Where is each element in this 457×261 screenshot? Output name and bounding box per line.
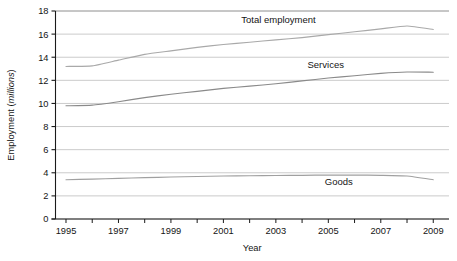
series-label-total-employment: Total employment	[241, 14, 316, 25]
x-axis-tick-labels-group: 19951997199920012003200520072009	[56, 226, 444, 236]
y-tick-label-14: 14	[38, 53, 48, 63]
x-axis-title: Year	[243, 243, 262, 253]
y-tick-label-6: 6	[43, 145, 48, 155]
series-line-total-employment	[66, 26, 433, 66]
series-line-goods	[66, 175, 433, 180]
series-label-goods: Goods	[325, 176, 353, 187]
y-tick-label-18: 18	[38, 6, 48, 16]
x-tick-label-2001: 2001	[213, 226, 234, 236]
employment-line-chart: 024681012141618 199519971999200120032005…	[0, 0, 457, 261]
y-tick-label-2: 2	[43, 191, 48, 201]
y-tick-label-10: 10	[38, 99, 48, 109]
series-line-services	[66, 72, 433, 106]
y-tick-label-16: 16	[38, 30, 48, 40]
y-axis-title: Employment (millions)	[6, 69, 16, 160]
x-tick-label-1995: 1995	[56, 226, 77, 236]
x-tick-label-2003: 2003	[266, 226, 287, 236]
series-lines-group	[66, 26, 433, 180]
y-tick-label-0: 0	[43, 214, 48, 224]
y-axis-tick-labels-group: 024681012141618	[38, 6, 48, 224]
x-tick-label-2005: 2005	[318, 226, 339, 236]
series-label-services: Services	[307, 59, 344, 70]
y-axis-title-close: )	[6, 69, 16, 72]
cropped-figure-title	[0, 0, 457, 2]
y-tick-label-4: 4	[43, 168, 48, 178]
y-axis-title-units: millions	[6, 72, 16, 103]
chart-canvas: 024681012141618 199519971999200120032005…	[0, 0, 457, 261]
x-tick-label-1997: 1997	[108, 226, 129, 236]
y-axis-ticks-group	[52, 11, 56, 219]
x-tick-label-2009: 2009	[423, 226, 444, 236]
x-tick-label-2007: 2007	[370, 226, 391, 236]
x-tick-label-1999: 1999	[161, 226, 182, 236]
x-axis-ticks-group	[66, 219, 433, 223]
y-tick-label-8: 8	[43, 122, 48, 132]
y-tick-label-12: 12	[38, 76, 48, 86]
series-labels-group: Total employmentTotal employmentServices…	[241, 14, 353, 187]
y-axis-title-main: Employment (	[6, 102, 16, 160]
